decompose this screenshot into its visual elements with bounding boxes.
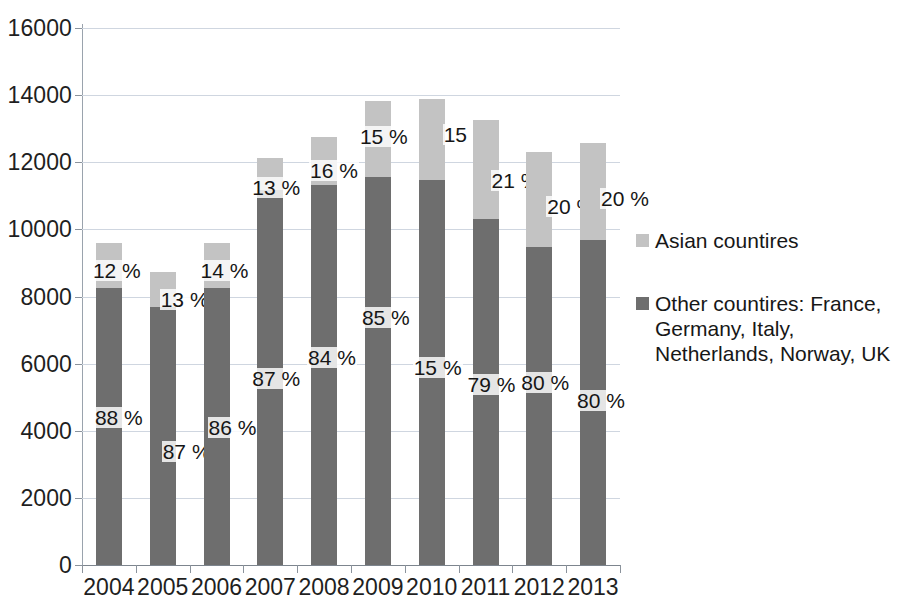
gridline (82, 28, 620, 29)
y-axis-tickmark (75, 162, 82, 163)
bar-data-label-other: 80 % (520, 372, 570, 393)
x-axis-tick-label: 2011 (459, 574, 513, 600)
bar-data-label-asian: 12 % (92, 260, 142, 281)
y-axis-tick-label: 4000 (0, 420, 72, 443)
x-axis-tick-label: 2012 (512, 574, 566, 600)
x-axis-tickmark (512, 565, 513, 573)
legend-label: Other countires: France, Germany, Italy,… (655, 291, 908, 366)
y-axis-tickmark (75, 431, 82, 432)
x-axis-tick-label: 2007 (243, 574, 297, 600)
x-axis-tick-label: 2005 (136, 574, 190, 600)
y-axis-tickmark (75, 565, 82, 566)
y-axis-tick-label: 12000 (0, 151, 72, 174)
y-axis-tickmark (75, 95, 82, 96)
x-axis: 2004200520062007200820092010201120122013 (82, 574, 620, 604)
y-axis-tick-label: 0 (0, 554, 72, 577)
x-axis-tick-label: 2004 (82, 574, 136, 600)
bar-group[interactable] (96, 243, 122, 565)
bar-data-label-asian: 14 % (200, 260, 250, 281)
x-axis-tickmark (243, 565, 244, 573)
plot-area: 12 %88 %13 %87 %14 %86 %13 %87 %16 %84 %… (82, 28, 620, 565)
bar-data-label-other: 88 % (94, 407, 144, 428)
x-axis-tickmark (136, 565, 137, 573)
y-axis-tick-label: 2000 (0, 487, 72, 510)
y-axis-tickmark (75, 229, 82, 230)
y-axis-tick-label: 8000 (0, 286, 72, 309)
x-axis-tickmark (297, 565, 298, 573)
bar-data-label-asian: 20 % (600, 188, 650, 209)
x-axis-tick-label: 2008 (297, 574, 351, 600)
bar-group[interactable] (150, 272, 176, 565)
bar-data-label-other: 87 % (251, 368, 301, 389)
y-axis: 1600014000120001000080006000400020000 (0, 0, 72, 604)
legend-label: Asian countires (655, 228, 799, 253)
bar-segment-other-countries[interactable] (526, 247, 552, 565)
bar-data-label-asian: 16 % (309, 160, 359, 181)
x-axis-tickmark (459, 565, 460, 573)
x-axis-tickmark (566, 565, 567, 573)
bar-data-label-other: 80 % (576, 390, 626, 411)
bar-data-label-asian: 13 % (251, 177, 301, 198)
y-axis-tickmark (75, 297, 82, 298)
bar-data-label-other: 79 % (467, 374, 517, 395)
bar-group[interactable] (365, 101, 391, 565)
bar-segment-asian-countries[interactable] (419, 99, 445, 180)
y-axis-tick-label: 6000 (0, 353, 72, 376)
legend-entry[interactable]: Other countires: France, Germany, Italy,… (636, 291, 908, 366)
bar-data-label-other: 86 % (208, 417, 258, 438)
legend-entry[interactable]: Asian countires (636, 228, 908, 253)
x-axis-tickmark (351, 565, 352, 573)
bar-data-label-other: 85 % (361, 307, 411, 328)
bar-data-label-asian: 13 % (160, 289, 210, 310)
bar-data-label-other: 15 % (413, 357, 463, 378)
gridline (82, 95, 620, 96)
x-axis-tick-label: 2013 (566, 574, 620, 600)
stacked-bar-chart: 1600014000120001000080006000400020000 12… (0, 0, 916, 604)
bar-segment-other-countries[interactable] (311, 185, 337, 565)
bar-data-label-other: 84 % (307, 347, 357, 368)
y-axis-tickmark (75, 498, 82, 499)
x-axis-tick-label: 2009 (351, 574, 405, 600)
bar-segment-other-countries[interactable] (365, 177, 391, 565)
y-axis-tick-label: 10000 (0, 218, 72, 241)
x-axis-tick-label: 2010 (405, 574, 459, 600)
legend-swatch-icon (636, 234, 649, 247)
legend-swatch-icon (636, 297, 649, 310)
bar-segment-other-countries[interactable] (150, 307, 176, 565)
y-axis-tickmark (75, 364, 82, 365)
x-axis-tickmark (405, 565, 406, 573)
bar-group[interactable] (419, 99, 445, 565)
x-axis-tickmark (190, 565, 191, 573)
bar-group[interactable] (257, 158, 283, 565)
x-axis-tickmark (82, 565, 83, 573)
y-axis-tick-label: 16000 (0, 17, 72, 40)
y-axis-tickmark (75, 28, 82, 29)
y-axis-tick-label: 14000 (0, 84, 72, 107)
chart-legend: Asian countiresOther countires: France, … (636, 228, 908, 396)
x-axis-tick-label: 2006 (190, 574, 244, 600)
x-axis-tickmark (620, 565, 621, 573)
bar-data-label-asian: 15 % (359, 126, 409, 147)
bar-group[interactable] (204, 243, 230, 565)
